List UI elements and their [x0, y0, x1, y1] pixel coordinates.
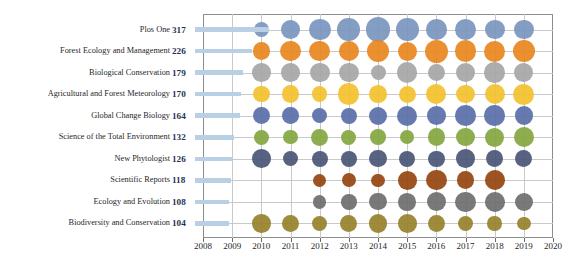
- journal-total-value: 132: [172, 131, 186, 143]
- bubble-point: [310, 63, 330, 83]
- journal-label: Biodiversity and Conservation: [69, 217, 170, 229]
- bubble-point: [398, 193, 416, 211]
- bubble-point: [282, 107, 298, 123]
- journal-total-value: 108: [172, 196, 186, 208]
- bubble-point: [252, 149, 271, 168]
- bubble-point: [514, 20, 533, 39]
- bubble-point: [487, 216, 501, 230]
- bubble-point: [427, 106, 446, 125]
- bubble-point: [426, 170, 446, 190]
- journal-label: Science of the Total Environment: [59, 131, 170, 143]
- bubble-point: [282, 215, 299, 232]
- journal-total-value: 179: [172, 67, 186, 79]
- bubble-point: [312, 151, 328, 167]
- bubble-point: [312, 86, 327, 101]
- journal-label: Plos One: [140, 24, 170, 36]
- bubble-point: [369, 107, 387, 125]
- bubble-point: [485, 84, 505, 104]
- bubble-point: [455, 40, 476, 61]
- bubble-point: [513, 40, 535, 62]
- bubble-point: [456, 85, 475, 104]
- bubble-point: [253, 86, 269, 102]
- journal-total-bar: [195, 178, 231, 183]
- journal-label: Agricultural and Forest Meteorology: [48, 88, 170, 100]
- journal-label: Global Change Biology: [91, 110, 170, 122]
- journal-total-bar: [195, 221, 229, 226]
- bubble-point: [485, 192, 505, 212]
- journal-total-bar: [195, 49, 252, 54]
- bubble-point: [339, 63, 358, 82]
- plot-area: [203, 14, 553, 238]
- bubble-point: [369, 150, 386, 167]
- journal-total-value: 164: [172, 110, 186, 122]
- bubble-point: [341, 108, 357, 124]
- bubble-point: [398, 171, 417, 190]
- journal-total-value: 126: [172, 153, 186, 165]
- bubble-point: [428, 215, 445, 232]
- bubble-point: [397, 106, 417, 126]
- bubble-point: [485, 170, 505, 190]
- bubble-point: [341, 194, 356, 209]
- bubble-point: [341, 151, 357, 167]
- bubble-point: [484, 105, 504, 125]
- bubble-point: [252, 214, 270, 232]
- journal-total-bar: [195, 70, 243, 75]
- gridline-vertical: [232, 14, 233, 238]
- journal-total-bar: [195, 92, 241, 97]
- bubble-point: [312, 216, 327, 231]
- journal-label: Scientific Reports: [110, 174, 170, 186]
- journal-total-bar: [195, 200, 229, 205]
- bubble-chart: Plos OneForest Ecology and ManagementBio…: [0, 0, 577, 268]
- bubble-point: [485, 20, 505, 40]
- journal-total-bar: [195, 27, 269, 32]
- journal-label: Ecology and Evolution: [93, 196, 170, 208]
- bubble-point: [309, 19, 331, 41]
- bubble-point: [515, 193, 533, 211]
- bubble-point: [456, 149, 475, 168]
- bubble-point: [369, 193, 386, 210]
- journal-label: New Phytologist: [114, 153, 170, 165]
- bubble-point: [428, 64, 445, 81]
- bubble-point: [281, 63, 300, 82]
- bubble-point: [371, 174, 384, 187]
- bubble-point: [398, 214, 417, 233]
- bubble-point: [253, 42, 271, 60]
- bubble-point: [396, 18, 419, 41]
- x-axis-labels: 2008200920102011201220132014201520162017…: [203, 241, 553, 257]
- journal-total-value: 226: [172, 45, 186, 57]
- bubble-point: [283, 130, 297, 144]
- bubble-point: [282, 85, 300, 103]
- bubble-point: [425, 40, 448, 63]
- x-axis-tick-label: 2020: [533, 241, 573, 251]
- bubble-point: [254, 130, 269, 145]
- journal-total-value: 104: [172, 217, 186, 229]
- bubble-point: [369, 214, 387, 232]
- bubble-point: [517, 217, 530, 230]
- bubble-point: [484, 41, 505, 62]
- journal-total-value: 118: [172, 174, 185, 186]
- bubble-point: [311, 129, 328, 146]
- bubble-point: [455, 192, 475, 212]
- bubble-point: [398, 42, 417, 61]
- bubble-point: [399, 86, 416, 103]
- bubble-point: [366, 17, 391, 42]
- bubble-point: [456, 128, 474, 146]
- journal-total-value: 317: [172, 24, 186, 36]
- bubble-point: [485, 128, 504, 147]
- journal-total-bar: [195, 157, 233, 162]
- bubble-point: [428, 128, 446, 146]
- bubble-point: [370, 129, 385, 144]
- bubble-point: [280, 41, 300, 61]
- journal-total-value: 170: [172, 88, 186, 100]
- bubble-point: [252, 63, 270, 81]
- bubble-point: [341, 130, 356, 145]
- bubble-point: [313, 195, 326, 208]
- bubble-point: [253, 107, 270, 124]
- bubble-point: [337, 18, 360, 41]
- bubble-point: [338, 83, 359, 104]
- bubble-point: [309, 41, 329, 61]
- journal-label: Biological Conservation: [89, 67, 170, 79]
- bubble-point: [399, 151, 415, 167]
- bubble-point: [426, 19, 447, 40]
- journal-total-bar: [195, 135, 234, 140]
